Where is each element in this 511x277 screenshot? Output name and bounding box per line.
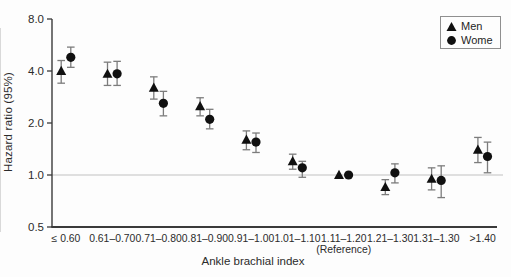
x-tick-label: 1.21–1.30 <box>367 233 413 244</box>
x-tick-label: 0.61–0.70 <box>89 233 135 244</box>
x-tick-label: ≤ 0.60 <box>52 233 81 244</box>
data-point-men-triangle <box>103 69 113 78</box>
y-tick-label: 2.0 <box>28 117 44 129</box>
y-tick-label: 0.5 <box>28 221 44 233</box>
x-tick-label: 0.91–1.00 <box>228 233 274 244</box>
data-point-women-circle <box>437 176 446 185</box>
hazard-ratio-figure: 8.04.02.01.00.5≤ 0.600.61–0.700.71–0.800… <box>0 0 511 277</box>
data-point-men-triangle <box>288 156 298 165</box>
data-point-women-circle <box>390 168 399 177</box>
data-point-men-triangle <box>380 182 390 191</box>
x-tick-label: 1.01–1.10 <box>274 233 320 244</box>
legend-item-men: Men <box>446 19 500 33</box>
data-point-women-circle <box>113 69 122 78</box>
x-tick-sublabel: (Reference) <box>316 244 371 255</box>
legend-label-women: Wome <box>461 34 493 46</box>
y-tick-label: 8.0 <box>28 13 44 25</box>
data-point-men-triangle <box>241 135 251 144</box>
y-tick-label: 1.0 <box>28 169 44 181</box>
data-point-women-circle <box>159 99 168 108</box>
x-axis-title: Ankle brachial index <box>168 255 338 267</box>
x-tick-label: 0.71–0.80 <box>135 233 181 244</box>
data-point-women-circle <box>251 138 260 147</box>
data-point-men-triangle <box>149 83 159 92</box>
legend-box: Men Wome <box>440 16 501 49</box>
circle-marker-icon <box>446 35 457 46</box>
y-tick-label: 4.0 <box>28 65 44 77</box>
data-point-men-triangle <box>334 170 344 179</box>
y-axis-title: Hazard ratio (95%) <box>2 47 14 197</box>
x-tick-label: 0.81–0.90 <box>182 233 228 244</box>
data-point-men-triangle <box>473 145 483 154</box>
data-point-women-circle <box>483 152 492 161</box>
legend-label-men: Men <box>461 20 482 32</box>
x-tick-label: 1.31–1.30 <box>413 233 459 244</box>
triangle-marker-icon <box>446 21 457 32</box>
data-point-men-triangle <box>195 101 205 110</box>
legend-item-women: Wome <box>446 33 500 47</box>
data-point-men-triangle <box>56 66 66 75</box>
chart-plot-area: 8.04.02.01.00.5≤ 0.600.61–0.700.71–0.800… <box>0 0 511 277</box>
x-tick-label: 1.11–1.20 <box>321 233 367 244</box>
data-point-women-circle <box>66 53 75 62</box>
x-tick-label: >1.40 <box>470 233 497 244</box>
data-point-women-circle <box>344 170 353 179</box>
data-point-women-circle <box>205 115 214 124</box>
data-point-women-circle <box>298 163 307 172</box>
